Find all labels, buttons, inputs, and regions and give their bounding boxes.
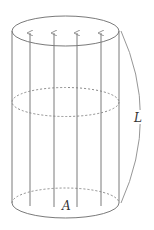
top-ellipse (12, 16, 119, 46)
middle-dashed-ellipse (12, 88, 119, 117)
cylinder-diagram: L A (0, 0, 154, 230)
area-label: A (61, 199, 71, 213)
length-label: L (133, 111, 142, 125)
